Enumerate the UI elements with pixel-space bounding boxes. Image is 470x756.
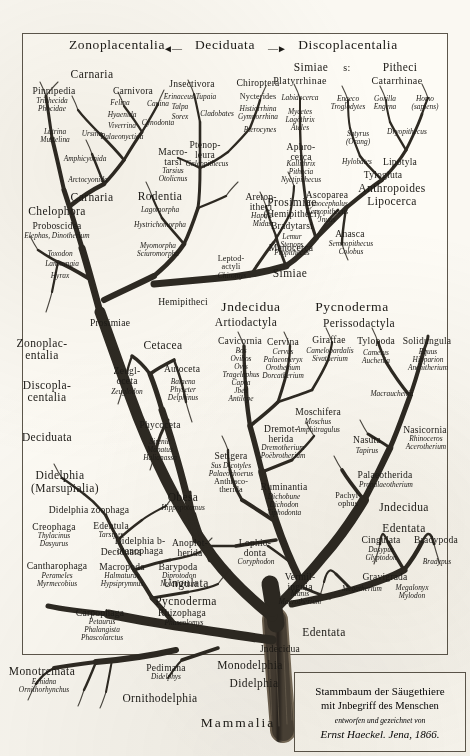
genus-lagomorpha: Lagomorpha	[141, 206, 179, 214]
taxon-jndecidua: Jndecidua	[379, 502, 429, 514]
genus-gorilla: Gorilla Engena	[374, 95, 397, 111]
taxon-didelphia-zoophaga: Didelphia zoophaga	[49, 505, 130, 515]
genus-elephas-dinotherium: Elephas, Dinotherium	[24, 232, 89, 240]
taxon-leptodactyli: Leptod- actyli	[218, 255, 245, 272]
arrow-left-icon: ◄—	[163, 44, 181, 54]
genus-rhinoceros: Rhinoceros Acerotherium	[406, 435, 446, 451]
taxon-artiodactyla: Artiodactyla	[215, 317, 277, 329]
genus-erinaceus-tupaia: Erinaceus Tupaia	[164, 93, 216, 101]
cartouche-subtitle: mit Jnbegriff des Menschen	[321, 700, 439, 711]
genus-sus-dicotyles: Sus Dicotyles Palaeochoerus	[209, 462, 253, 478]
header-simiae: Simiae	[294, 62, 328, 74]
taxon-simiae: Simiae	[273, 268, 307, 280]
taxon-gravigrada: Gravigrada	[362, 572, 407, 582]
taxon-nasuta: Nasuta	[353, 435, 381, 445]
genus-hyaenida: Hyaenida	[108, 111, 137, 119]
genus-camelus: Camelus Auchenia	[362, 349, 390, 365]
taxon-lipotyla: Lipotyla	[383, 157, 417, 167]
taxon-lophiodonta: Lophio- donta	[239, 538, 271, 558]
root-label-mammalia: Mammalia	[201, 716, 275, 730]
taxon-deciduata: Deciduata	[22, 432, 72, 444]
genus-lutrina: Lutrina Mustelina	[40, 128, 70, 144]
genus-hippopotamus: Hippopotamus	[161, 504, 205, 512]
taxon-monodelphia: Monodelphia	[217, 660, 283, 672]
genus-felina: Felina	[110, 99, 129, 107]
taxon-cervina: Cervina	[267, 337, 299, 347]
taxon-moschifera: Moschifera	[295, 407, 341, 417]
taxon-jndecidua: Jndecidua	[260, 644, 300, 654]
taxon-ptenopleura: Ptenop- leura	[189, 140, 220, 160]
taxon-didelphia: Didelphia	[36, 470, 85, 482]
genus-chiromys: Chiromys	[218, 272, 246, 280]
taxon-zeugloceta: Zeugl- oceta	[114, 366, 141, 386]
taxon-pinnipedia: Pinnipedia	[32, 86, 75, 96]
genus-amphicyonida: Amphicyonida	[64, 155, 107, 163]
genus-halmaturus: Halmaturus Hypsiprymnus	[101, 572, 144, 588]
taxon-setigera: Setigera	[214, 451, 247, 461]
taxon-edentata: Edentata	[382, 523, 425, 535]
taxon-perissodactyla: Perissodactyla	[323, 318, 395, 330]
header-zonoplacentalia: Zonoplacentalia	[69, 38, 165, 52]
header-platyrrhinae: Platyrrhinae	[273, 76, 327, 86]
taxon-cantharophaga: Cantharophaga	[27, 561, 88, 571]
genus-dryopithecus: Dryopithecus	[387, 128, 427, 136]
genus-manis: Manis Macrotherium	[279, 590, 321, 606]
genus-megatherium: Megatherium	[342, 585, 382, 593]
genus-hapale: Hapale Midas	[251, 212, 273, 228]
taxon-cavicornia: Cavicornia	[218, 336, 262, 346]
taxon-giraffae: Giraffae	[312, 335, 345, 345]
taxon-prosimiae: Prosimiae	[90, 318, 130, 328]
taxon-nycterides: Nycterides	[240, 93, 276, 101]
taxon-cetacea: Cetacea	[143, 340, 182, 352]
genus-dichobune: Dichobune Dichodon Xiphodonta	[267, 493, 302, 517]
genus-moschus: Moschus Amphitragulus	[296, 418, 340, 434]
genus-dremotherium: Dremotherium Poëbrotherium	[261, 444, 305, 460]
genus-hylobates: Hylobates	[342, 158, 372, 166]
genus-myomorpha: Myomorpha Sciuromorpha	[137, 242, 179, 258]
taxon-macrotarsi: Macro- tarsi	[158, 147, 187, 167]
cartouche-author: Ernst Haeckel. Jena, 1866.	[320, 728, 439, 740]
taxon-autoceta: Autoceta	[164, 364, 200, 374]
genus-hystrichomorpha: Hystrichomorpha	[134, 221, 186, 229]
title-cartouche: Stammbaum der Säugethiere mit Jnbegriff …	[294, 672, 466, 752]
taxon-zonoplacentalia: Zonoplac- entalia	[17, 338, 68, 361]
taxon-carnivora: Carnivora	[113, 86, 153, 96]
taxon-carnaria: Carnaria	[71, 69, 114, 81]
header-catarrhinae: Catarrhinae	[371, 76, 422, 86]
genus-toxodon: Toxodon	[47, 250, 72, 258]
genus-canina: Canina	[147, 100, 169, 108]
taxon-pycnoderma: Pycnoderma	[315, 300, 388, 314]
genus-didelphys: Didelphys	[151, 673, 181, 681]
taxon-cingulata: Cingulata	[361, 535, 400, 545]
genus-mycetes: Mycetes Lagothrix Ateles	[285, 108, 314, 132]
genus-homo: Homo (sapiens)	[411, 95, 438, 111]
taxon-chelophora: Chelophora	[28, 206, 86, 218]
taxon-palaeotherida: Palaeotherida	[358, 470, 413, 480]
genus-bradypus: Bradypus	[423, 558, 451, 566]
taxon-jndecidua: Jndecidua	[221, 300, 280, 314]
genus-hyrax: Hyrax	[51, 272, 69, 280]
taxon-tylogluta: Tylogluta	[364, 170, 402, 180]
genus-arctocyonida: Arctocyonida	[68, 176, 108, 184]
genus-sorex: Sorex	[172, 113, 189, 121]
genus-propalaeotherium: Propalaeotherium	[359, 481, 413, 489]
genus-cynodonta: Cynodonta	[142, 119, 174, 127]
taxon-carnaria: Carnaria	[71, 192, 114, 204]
genus-macrauchenia: Macrauchenia	[370, 390, 413, 398]
genus-galeopithecus: Galeopithecus	[186, 160, 229, 168]
genus-thylacinus: Thylacinus Dasyurus	[38, 532, 70, 548]
header-deciduata: Deciduata	[195, 38, 255, 52]
taxon-chiroptera: Chiroptera	[236, 78, 279, 88]
genus-cervus: Cervus Palaeomeryx Orotherium Dorcatheri…	[262, 348, 304, 380]
taxon-anasca: Anasca	[335, 229, 364, 239]
genus-megalonyx: Megalonyx Mylodon	[396, 584, 429, 600]
taxon-monotremata: Monotremata	[9, 666, 75, 678]
taxon-hemipitheci: Hemipitheci	[158, 297, 208, 307]
taxon-ornithodelphia: Ornithodelphia	[122, 693, 197, 705]
genus-kallithrix: Kallithrix Pithecia Nyctipithecus	[281, 160, 321, 184]
genus-pterocynes: Pterocynes	[244, 126, 277, 134]
taxon-pachylophus: Pachyl- ophus	[335, 492, 361, 509]
genus-perameles: Perameles Myrmecobius	[37, 572, 77, 588]
genus-zeuglodon: Zeuglodon	[111, 388, 143, 396]
genus-tapirus: Tapirus	[356, 447, 378, 455]
